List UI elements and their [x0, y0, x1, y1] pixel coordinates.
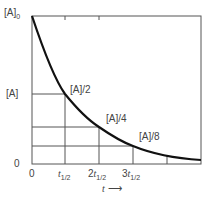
x-label-t3: 3t1/2	[122, 169, 140, 181]
plot-frame	[32, 16, 201, 164]
y-label-zero: 0	[14, 159, 20, 169]
x-label-zero: 0	[29, 169, 35, 179]
annot-eighth: [A]/8	[139, 132, 160, 142]
x-label-t2: 2t1/2	[88, 169, 106, 181]
x-axis-title: t ⟶	[102, 184, 122, 194]
x-label-t1: t1/2	[58, 169, 71, 181]
y-label-a: [A]	[6, 89, 18, 99]
annot-half: [A]/2	[70, 85, 91, 95]
arrow-right-icon: ⟶	[108, 183, 122, 194]
y-label-a0: [A]0	[4, 8, 20, 20]
annot-quarter: [A]/4	[106, 114, 127, 124]
decay-curve	[32, 16, 201, 160]
